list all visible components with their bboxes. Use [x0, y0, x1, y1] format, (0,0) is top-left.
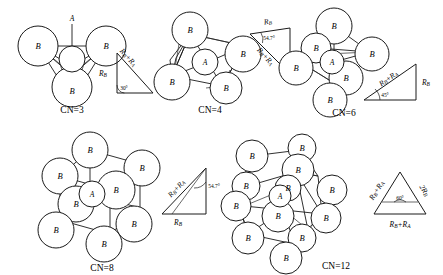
cn6-label-b2: B [313, 43, 318, 53]
svg-text:RB+RA: RB+RA [255, 45, 277, 68]
cn3-side-rb: RB [98, 69, 108, 79]
cn6-caption: CN=6 [332, 108, 356, 118]
svg-text:RB+RA: RB+RA [376, 68, 400, 89]
cn12-angle-label: 60° [396, 195, 404, 201]
svg-text:RB: RB [262, 16, 273, 27]
cn8-label-a: A [89, 190, 95, 199]
cn8-label-b7: B [53, 225, 58, 235]
cn4-angle-label: 54.7° [263, 35, 275, 41]
cn8-label-b6: B [131, 219, 136, 229]
cn6-label-b5: B [343, 73, 348, 83]
cn8-angle-arc [194, 182, 206, 188]
figure-cn12: B B B B B B B B B B B B A CN=12 [222, 134, 357, 274]
cn4-side-rb: RB [262, 16, 273, 27]
svg-text:2RB: 2RB [418, 183, 433, 199]
cn6-label-b1: B [331, 21, 336, 31]
cn6-label-b6: B [327, 95, 332, 105]
cn12-label-b6: B [329, 185, 334, 195]
cn12-label-b5: B [285, 183, 290, 193]
figure-cn6-triangle: 45° RB+RA RB [358, 56, 438, 108]
cn12-label-b12: B [283, 253, 288, 263]
cn3-angle-label: 30° [120, 85, 128, 91]
svg-text:RB+RA: RB+RA [165, 177, 187, 200]
cn12-side-right: 2RB [418, 183, 433, 199]
cn4-label-b3: B [169, 77, 174, 87]
cn12-equilateral-triangle [374, 172, 426, 214]
cn4-label-a: A [202, 58, 208, 67]
figure-cn8-triangle: 54.7° RB+RA RB [152, 160, 228, 226]
cn12-label-b9: B [275, 211, 280, 221]
cn8-caption: CN=8 [90, 263, 114, 273]
cn6-side-hyp: RB+RA [376, 68, 400, 89]
cn12-label-b4: B [243, 181, 248, 191]
cn8-label-b3: B [57, 171, 62, 181]
cn12-label-b1: B [249, 151, 254, 161]
cn8-label-b4: B [113, 185, 118, 195]
cn12-caption: CN=12 [322, 261, 350, 271]
diagram-canvas: B B B A CN=3 30° RB RB+RA [0, 0, 443, 275]
cn3-label-b3: B [69, 86, 74, 96]
cn12-label-b10: B [299, 233, 304, 243]
cn3-label-a: A [69, 14, 75, 23]
cn8-label-b2: B [139, 163, 144, 173]
cn6-label-a: A [329, 58, 335, 67]
cn12-label-a: A [277, 192, 283, 201]
cn3-label-b1: B [35, 41, 40, 51]
cn8-side-rb: RB [173, 218, 183, 228]
cn12-label-b7: B [233, 201, 238, 211]
cn6-label-b4: B [293, 63, 298, 73]
cn4-label-b1: B [187, 25, 192, 35]
cn8-ligand-circles [38, 132, 160, 262]
cn8-angle-label: 54.7° [208, 183, 220, 189]
cn4-caption: CN=4 [198, 105, 222, 115]
cn12-label-b8: B [323, 213, 328, 223]
cn8-label-b8: B [101, 239, 106, 249]
cn3-caption: CN=3 [60, 105, 84, 115]
cn12-label-b3: B [295, 165, 300, 175]
cn6-angle-label: 45° [381, 92, 389, 98]
cn8-side-hyp: RB+RA [165, 177, 187, 200]
cn4-label-b4: B [223, 83, 228, 93]
cn4-side-hyp: RB+RA [255, 45, 277, 68]
cn12-side-base: RB+RA [389, 220, 412, 230]
cn8-label-b1: B [87, 145, 92, 155]
figure-cn12-triangle: 60° RB+RA 2RB RB+RA [358, 164, 442, 232]
cn8-label-b5: B [73, 199, 78, 209]
cn6-side-rb: RB [421, 78, 431, 88]
cn12-label-b2: B [299, 143, 304, 153]
cn12-label-b11: B [245, 233, 250, 243]
